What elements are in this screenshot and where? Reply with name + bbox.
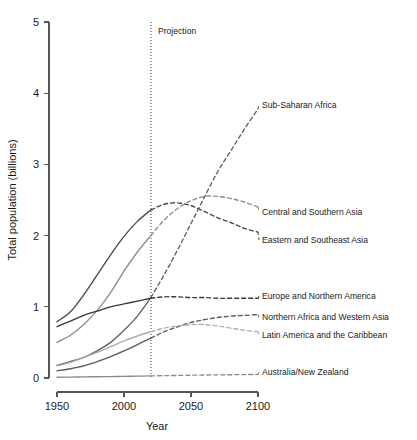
projection-annotation-label: Projection (158, 26, 196, 36)
y-axis-title: Total population (billions) (6, 139, 18, 260)
series-line-hist-central-and-southern-asia (57, 236, 151, 343)
series-label-sub-saharan-africa: Sub-Saharan Africa (262, 100, 337, 110)
y-tick-label-0: 0 (33, 372, 39, 384)
x-tick-label-2100: 2100 (246, 400, 270, 412)
y-tick-label-3: 3 (33, 158, 39, 170)
series-label-northern-africa-and-western-asia: Northern Africa and Western Asia (262, 312, 389, 322)
series-leader-australia-new-zealand (258, 372, 259, 374)
series-line-proj-central-and-southern-asia (151, 196, 258, 236)
y-tick-label-2: 2 (33, 230, 39, 242)
series-line-hist-northern-africa-and-western-asia (57, 338, 151, 371)
series-leader-latin-america-and-the-caribbean (258, 332, 259, 335)
series-label-layer: Sub-Saharan AfricaCentral and Southern A… (258, 100, 389, 377)
chart-svg: 0 1 2 3 4 5 Total population (billions) … (0, 0, 417, 440)
x-axis-title: Year (146, 420, 169, 432)
series-line-hist-eastern-and-southeast-asia (57, 210, 151, 322)
series-label-central-and-southern-asia: Central and Southern Asia (262, 207, 363, 217)
series-label-australia-new-zealand: Australia/New Zealand (262, 367, 349, 377)
series-leader-sub-saharan-africa (258, 105, 259, 109)
series-label-europe-and-northern-america: Europe and Northern America (262, 291, 376, 301)
x-tick-label-2050: 2050 (179, 400, 203, 412)
series-line-hist-australia-new-zealand (57, 376, 151, 377)
x-axis-ticks (57, 392, 258, 397)
series-line-hist-sub-saharan-africa (57, 298, 151, 366)
series-label-latin-america-and-the-caribbean: Latin America and the Caribbean (262, 330, 387, 340)
y-tick-label-1: 1 (33, 301, 39, 313)
series-line-proj-northern-africa-and-western-asia (151, 315, 258, 339)
y-axis-ticks (44, 22, 49, 378)
series-leader-europe-and-northern-america (258, 296, 259, 298)
series-leader-northern-africa-and-western-asia (258, 315, 259, 317)
y-tick-label-5: 5 (33, 16, 39, 28)
x-tick-label-1950: 1950 (45, 400, 69, 412)
series-line-proj-australia-new-zealand (151, 374, 258, 375)
y-tick-label-4: 4 (33, 87, 39, 99)
series-line-proj-europe-and-northern-america (151, 297, 258, 299)
series-leader-central-and-southern-asia (258, 207, 259, 212)
x-tick-label-2000: 2000 (112, 400, 136, 412)
series-label-eastern-and-southeast-asia: Eastern and Southeast Asia (262, 235, 368, 245)
series-leader-eastern-and-southeast-asia (258, 232, 259, 240)
series-layer (57, 109, 258, 377)
population-projection-chart: 0 1 2 3 4 5 Total population (billions) … (0, 0, 417, 440)
